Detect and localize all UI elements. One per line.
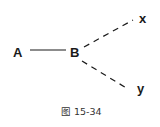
edge-b-y bbox=[82, 61, 128, 89]
node-a: A bbox=[13, 45, 23, 60]
edge-b-x bbox=[84, 20, 133, 47]
node-y: y bbox=[137, 81, 145, 96]
node-b: B bbox=[70, 45, 79, 60]
diagram-canvas: A B x y 图 15-34 bbox=[0, 0, 160, 127]
figure-caption: 图 15-34 bbox=[61, 106, 102, 117]
node-x: x bbox=[139, 11, 147, 26]
